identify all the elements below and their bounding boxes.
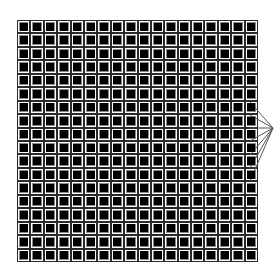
- black-square: [127, 90, 135, 98]
- black-square: [100, 144, 108, 152]
- black-square: [33, 224, 41, 232]
- black-square: [87, 130, 95, 138]
- black-square: [113, 211, 121, 219]
- black-square: [154, 50, 162, 58]
- black-square: [207, 90, 215, 98]
- black-square: [167, 157, 175, 165]
- black-square: [33, 103, 41, 111]
- black-square: [207, 184, 215, 192]
- black-square: [87, 211, 95, 219]
- black-square: [60, 103, 68, 111]
- black-square: [60, 224, 68, 232]
- black-square: [154, 197, 162, 205]
- black-square: [100, 184, 108, 192]
- black-square: [207, 171, 215, 179]
- black-square: [221, 103, 229, 111]
- black-square: [221, 117, 229, 125]
- black-square: [113, 184, 121, 192]
- black-square: [221, 144, 229, 152]
- black-square: [46, 63, 54, 71]
- black-square: [247, 171, 255, 179]
- black-square: [140, 157, 148, 165]
- black-square: [180, 184, 188, 192]
- black-square: [113, 157, 121, 165]
- black-square: [100, 63, 108, 71]
- black-square: [247, 144, 255, 152]
- black-square: [180, 157, 188, 165]
- black-square: [127, 76, 135, 84]
- black-square: [140, 211, 148, 219]
- black-square: [180, 76, 188, 84]
- black-square: [247, 224, 255, 232]
- black-square: [247, 23, 255, 31]
- black-square: [46, 90, 54, 98]
- black-square: [60, 36, 68, 44]
- black-square: [167, 50, 175, 58]
- black-square: [180, 224, 188, 232]
- black-square: [73, 144, 81, 152]
- black-square: [167, 23, 175, 31]
- black-square: [60, 184, 68, 192]
- black-square: [247, 184, 255, 192]
- black-square: [207, 251, 215, 259]
- black-square: [20, 251, 28, 259]
- black-square: [113, 238, 121, 246]
- black-square: [127, 144, 135, 152]
- black-square: [73, 23, 81, 31]
- black-square: [234, 117, 242, 125]
- black-square: [154, 23, 162, 31]
- black-square: [194, 184, 202, 192]
- black-square: [167, 76, 175, 84]
- black-square: [100, 197, 108, 205]
- black-square: [113, 130, 121, 138]
- black-square: [60, 23, 68, 31]
- black-square: [33, 76, 41, 84]
- black-square: [100, 224, 108, 232]
- black-square: [207, 144, 215, 152]
- black-square: [154, 117, 162, 125]
- black-square: [154, 144, 162, 152]
- black-square: [167, 36, 175, 44]
- black-square: [113, 63, 121, 71]
- black-square: [73, 63, 81, 71]
- black-square: [33, 184, 41, 192]
- black-square: [127, 184, 135, 192]
- black-square: [234, 197, 242, 205]
- black-square: [127, 130, 135, 138]
- black-square: [247, 130, 255, 138]
- black-square: [113, 224, 121, 232]
- black-square: [154, 171, 162, 179]
- black-square: [247, 90, 255, 98]
- black-square: [180, 197, 188, 205]
- black-square: [207, 224, 215, 232]
- black-square: [113, 103, 121, 111]
- black-square: [20, 144, 28, 152]
- black-square: [194, 157, 202, 165]
- black-square: [73, 50, 81, 58]
- black-square: [113, 90, 121, 98]
- black-square: [60, 90, 68, 98]
- black-square: [167, 90, 175, 98]
- black-square: [100, 251, 108, 259]
- black-square: [221, 224, 229, 232]
- black-square: [154, 63, 162, 71]
- black-square: [73, 238, 81, 246]
- black-square: [127, 23, 135, 31]
- black-square: [194, 197, 202, 205]
- black-square: [167, 144, 175, 152]
- black-square: [234, 171, 242, 179]
- black-square: [87, 238, 95, 246]
- black-square: [234, 251, 242, 259]
- black-square: [140, 171, 148, 179]
- black-square: [207, 157, 215, 165]
- black-square: [234, 224, 242, 232]
- fan-lines: [0, 0, 274, 279]
- black-square: [87, 184, 95, 192]
- black-square: [221, 184, 229, 192]
- black-square: [207, 197, 215, 205]
- black-square: [154, 76, 162, 84]
- black-square: [234, 76, 242, 84]
- black-square: [113, 171, 121, 179]
- black-square: [33, 157, 41, 165]
- black-square: [33, 36, 41, 44]
